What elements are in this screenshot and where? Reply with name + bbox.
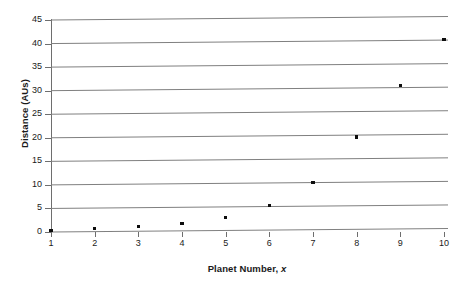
y-axis-tick-label: 20: [16, 132, 42, 142]
y-axis-tick-label: 25: [16, 108, 42, 118]
x-axis-title: Planet Number, x: [48, 263, 446, 274]
plot-area: [51, 20, 444, 232]
data-point: [355, 135, 358, 138]
y-axis-tick-label: 0: [16, 226, 42, 236]
x-axis-tick: [138, 232, 139, 237]
gridline: [51, 134, 448, 138]
y-axis-tick-label: 30: [16, 85, 42, 95]
x-axis-tick-label: 9: [388, 238, 412, 248]
x-axis-title-text: Planet Number,: [208, 263, 281, 274]
gridline: [51, 87, 448, 91]
x-axis-tick: [313, 232, 314, 237]
x-axis-tick-label: 3: [126, 238, 150, 248]
y-axis-tick-label: 35: [16, 61, 42, 71]
gridlines: [51, 20, 444, 232]
x-axis-tick-label: 1: [39, 238, 63, 248]
y-axis-tick-label: 15: [16, 155, 42, 165]
x-axis-tick: [357, 232, 358, 237]
x-axis-tick: [51, 232, 52, 237]
x-axis-tick: [182, 232, 183, 237]
data-point: [93, 227, 96, 230]
x-axis-tick: [269, 232, 270, 237]
y-axis-tick-label: 5: [16, 202, 42, 212]
gridline: [51, 111, 448, 115]
x-axis-tick-label: 2: [83, 238, 107, 248]
x-axis-tick: [226, 232, 227, 237]
data-point: [224, 216, 227, 219]
data-point: [442, 38, 445, 41]
data-point: [311, 181, 314, 184]
y-axis-tick-label: 40: [16, 38, 42, 48]
data-point: [268, 204, 271, 207]
x-axis-tick: [444, 232, 445, 237]
x-axis-tick-label: 4: [170, 238, 194, 248]
data-point: [137, 225, 140, 228]
x-axis-tick-label: 6: [257, 238, 281, 248]
y-axis-tick-label: 45: [16, 14, 42, 24]
data-point: [399, 84, 402, 87]
gridline: [51, 17, 448, 21]
x-axis-tick-label: 5: [214, 238, 238, 248]
gridline: [51, 158, 448, 162]
x-axis-tick: [95, 232, 96, 237]
gridline: [51, 205, 448, 209]
x-axis-tick-label: 7: [301, 238, 325, 248]
gridline: [51, 40, 448, 44]
gridline: [51, 64, 448, 68]
x-axis-tick-label: 10: [432, 238, 456, 248]
data-point: [180, 222, 183, 225]
gridline: [51, 229, 448, 233]
x-axis-title-variable: x: [281, 263, 286, 274]
gridline: [51, 181, 448, 185]
x-axis-tick: [400, 232, 401, 237]
y-axis-tick-label: 10: [16, 179, 42, 189]
x-axis-tick-label: 8: [345, 238, 369, 248]
scatter-chart: Distance (AUs) 051015202530354045 123456…: [0, 0, 459, 283]
